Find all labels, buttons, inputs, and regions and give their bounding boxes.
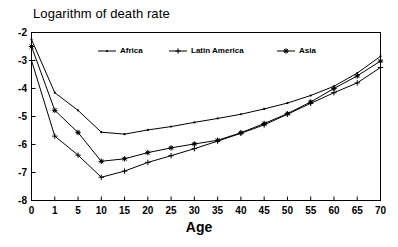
marker-dot <box>147 129 149 131</box>
marker-asterisk-core <box>54 109 56 111</box>
marker-dot <box>217 117 219 119</box>
marker-asterisk-core <box>310 101 312 103</box>
x-tick-label: 0 <box>20 205 44 216</box>
x-tick-label: 1 <box>43 205 67 216</box>
x-tick-label: 50 <box>275 205 299 216</box>
marker-dot <box>54 92 56 94</box>
x-tick-label: 25 <box>159 205 183 216</box>
x-tick-label: 30 <box>182 205 206 216</box>
x-tick-label: 20 <box>136 205 160 216</box>
y-tick-label: -3 <box>5 55 27 66</box>
legend-label-latin-america: Latin America <box>191 46 244 55</box>
chart-figure: Logarithm of death rate -2-3-4-5-6-7-8 0… <box>0 0 398 247</box>
x-tick-label: 10 <box>89 205 113 216</box>
marker-dot <box>30 38 32 40</box>
y-tick-label: -7 <box>5 167 27 178</box>
y-tick-label: -4 <box>5 83 27 94</box>
marker-asterisk-core <box>285 50 287 52</box>
marker-asterisk-core <box>77 131 79 133</box>
y-tick-label: -6 <box>5 139 27 150</box>
marker-asterisk-core <box>217 139 219 141</box>
marker-asterisk-core <box>123 158 125 160</box>
series-line <box>32 47 381 162</box>
marker-dot <box>193 121 195 123</box>
marker-dot <box>100 131 102 133</box>
marker-dot <box>310 94 312 96</box>
series-latin-america <box>29 58 383 180</box>
marker-asterisk-core <box>379 60 381 62</box>
marker-asterisk-core <box>333 87 335 89</box>
plot-frame <box>32 33 381 201</box>
x-tick-label: 40 <box>229 205 253 216</box>
x-tick-label: 5 <box>66 205 90 216</box>
legend-label-asia: Asia <box>299 46 316 55</box>
marker-asterisk-core <box>100 160 102 162</box>
x-axis-title: Age <box>0 219 398 235</box>
marker-asterisk-core <box>147 152 149 154</box>
y-tick-label: -2 <box>5 27 27 38</box>
marker-dot <box>240 113 242 115</box>
marker-asterisk-core <box>240 132 242 134</box>
marker-dot <box>106 50 108 52</box>
marker-asterisk-core <box>30 45 32 47</box>
marker-dot <box>170 125 172 127</box>
x-tick-label: 70 <box>369 205 393 216</box>
marker-dot <box>77 109 79 111</box>
series-lines <box>29 38 383 180</box>
legend-label-africa: Africa <box>120 46 143 55</box>
marker-dot <box>286 102 288 104</box>
y-tick-label: -5 <box>5 111 27 122</box>
marker-asterisk-core <box>193 143 195 145</box>
marker-dot <box>379 55 381 57</box>
series-asia <box>29 44 383 164</box>
marker-asterisk-core <box>356 75 358 77</box>
x-tick-label: 60 <box>322 205 346 216</box>
marker-dot <box>123 133 125 135</box>
axes <box>32 33 381 201</box>
marker-asterisk-core <box>170 147 172 149</box>
x-tick-label: 45 <box>252 205 276 216</box>
marker-dot <box>263 108 265 110</box>
series-line <box>32 61 381 178</box>
marker-asterisk-core <box>263 122 265 124</box>
x-tick-label: 55 <box>299 205 323 216</box>
x-tick-label: 65 <box>345 205 369 216</box>
x-tick-label: 35 <box>206 205 230 216</box>
x-tick-label: 15 <box>113 205 137 216</box>
marker-asterisk-core <box>286 113 288 115</box>
